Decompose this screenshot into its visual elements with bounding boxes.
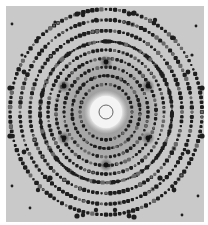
diffraction-pattern-svg: [0, 0, 208, 225]
central-beam: [84, 90, 128, 134]
diffraction-pattern-image: [0, 0, 208, 225]
